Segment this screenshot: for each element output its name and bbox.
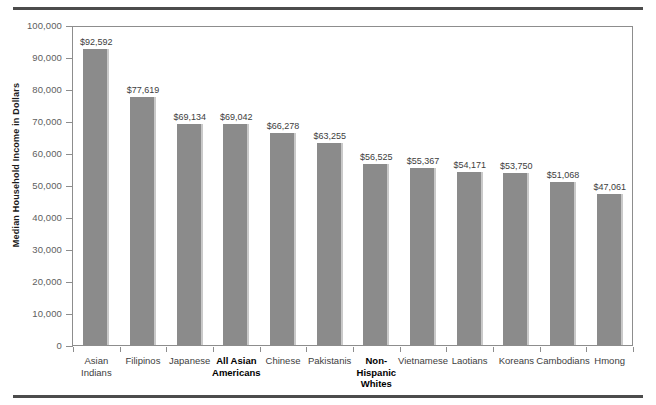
bar-value-label: $66,278	[250, 121, 316, 131]
x-axis-category-label-line: Hmong	[579, 355, 641, 367]
x-axis-tick-mark	[120, 347, 121, 352]
y-axis-tick-mark	[66, 186, 72, 187]
bar	[550, 182, 576, 345]
y-axis-tick-label: 100,000	[4, 20, 62, 31]
bar	[503, 173, 529, 345]
y-axis-tick-label: 90,000	[4, 52, 62, 63]
x-axis-tick-mark	[213, 347, 214, 352]
x-axis-category-label-line: Whites	[345, 378, 407, 390]
y-axis-tick-label: 20,000	[4, 276, 62, 287]
x-axis-tick-mark	[493, 347, 494, 352]
bar	[223, 124, 249, 345]
y-axis-tick-mark	[66, 90, 72, 91]
x-axis-category-label: Hmong	[579, 355, 641, 367]
x-axis-tick-mark	[166, 347, 167, 352]
x-axis-tick-mark	[586, 347, 587, 352]
x-axis-tick-mark	[400, 347, 401, 352]
plot-area	[73, 26, 633, 346]
x-axis-category-label-line: Indians	[65, 367, 127, 379]
y-axis-tick-mark	[66, 346, 72, 347]
x-axis-tick-mark	[306, 347, 307, 352]
y-axis-tick-label: 80,000	[4, 84, 62, 95]
bar	[270, 133, 296, 345]
x-axis-tick-mark	[73, 347, 74, 352]
y-axis-tick-label: 70,000	[4, 116, 62, 127]
bar	[130, 97, 156, 345]
x-axis-tick-mark	[540, 347, 541, 352]
x-axis-tick-mark	[260, 347, 261, 352]
bar	[363, 164, 389, 345]
bar-value-label: $92,592	[63, 37, 129, 47]
y-axis-tick-label: 30,000	[4, 244, 62, 255]
y-axis-tick-mark	[66, 282, 72, 283]
bar	[410, 168, 436, 345]
bar	[83, 49, 109, 345]
bar-value-label: $63,255	[297, 131, 363, 141]
y-axis-tick-label: 40,000	[4, 212, 62, 223]
bar	[597, 194, 623, 345]
x-axis-category-label-line: Hispanic	[345, 367, 407, 379]
y-axis-tick-label: 0	[4, 340, 62, 351]
y-axis-tick-label: 60,000	[4, 148, 62, 159]
bar-value-label: $77,619	[110, 85, 176, 95]
y-axis-tick-mark	[66, 314, 72, 315]
bar-value-label: $51,068	[530, 170, 596, 180]
y-axis-tick-label: 50,000	[4, 180, 62, 191]
bar-value-label: $47,061	[577, 182, 643, 192]
y-axis-tick-mark	[66, 58, 72, 59]
bar	[177, 124, 203, 345]
y-axis-tick-mark	[66, 218, 72, 219]
bottom-divider-rule	[13, 395, 643, 398]
y-axis-tick-mark	[66, 26, 72, 27]
x-axis-category-label-line: Americans	[205, 367, 267, 379]
x-axis-tick-mark	[353, 347, 354, 352]
bar	[457, 172, 483, 345]
y-axis-tick-label: 10,000	[4, 308, 62, 319]
x-axis-tick-mark	[633, 347, 634, 352]
y-axis-tick-mark	[66, 154, 72, 155]
y-axis-tick-mark	[66, 122, 72, 123]
x-axis-tick-mark	[446, 347, 447, 352]
bar	[317, 143, 343, 345]
y-axis-title: Median Household Income in Dollars	[11, 35, 21, 295]
y-axis-tick-mark	[66, 250, 72, 251]
chart-figure: Median Household Income in Dollars 010,0…	[0, 0, 656, 405]
top-divider-rule	[13, 7, 643, 10]
